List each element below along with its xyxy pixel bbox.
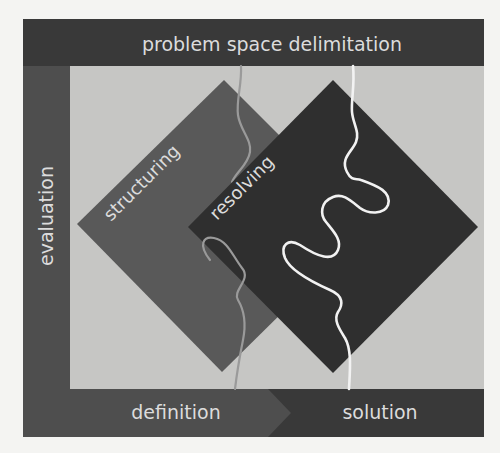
evaluation-label: evaluation — [35, 166, 57, 266]
problem-solving-diagram: problem space delimitation evaluation de… — [0, 0, 500, 453]
top-bar-label: problem space delimitation — [142, 33, 402, 55]
solution-label: solution — [342, 401, 417, 423]
definition-label: definition — [131, 401, 220, 423]
